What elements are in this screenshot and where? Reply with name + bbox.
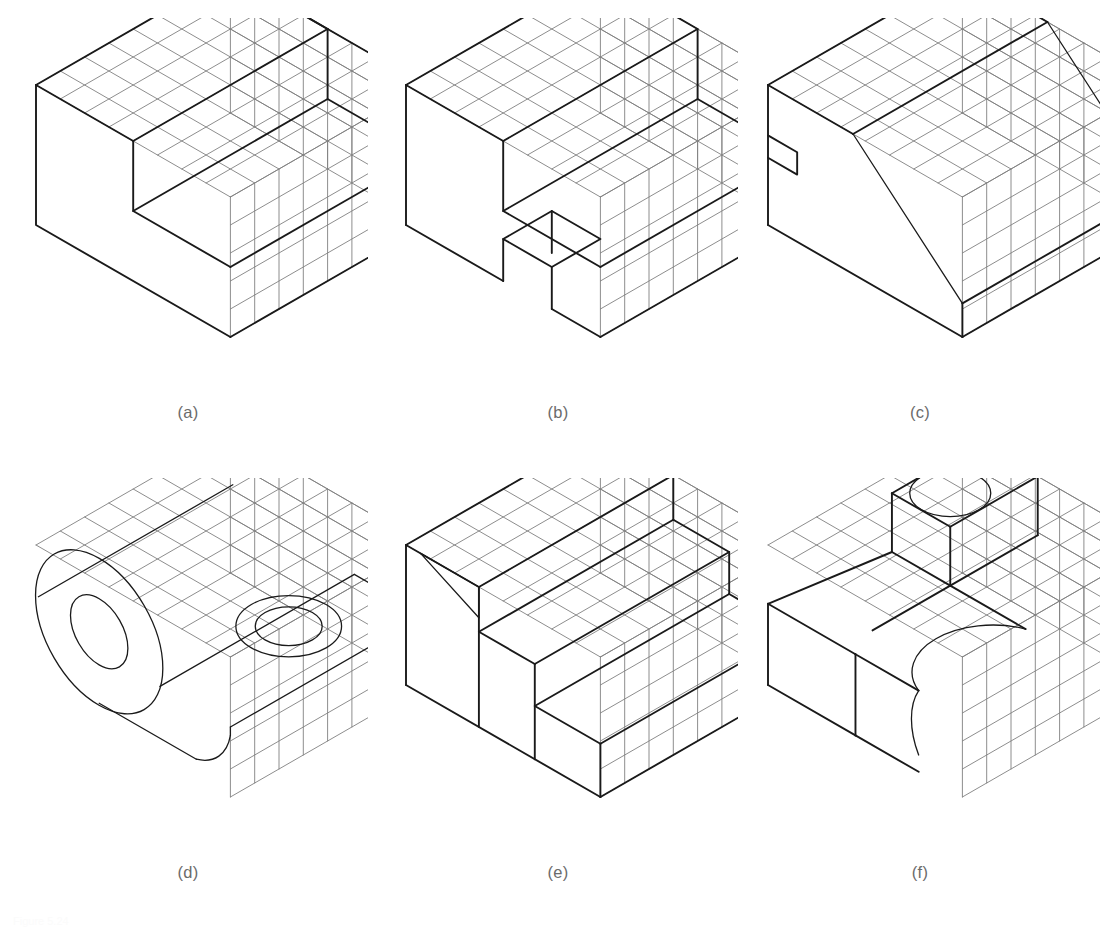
object-circle <box>59 585 140 679</box>
object-edge <box>962 191 1100 303</box>
grid-line <box>914 57 1100 169</box>
panel-caption-a: (a) <box>8 403 368 422</box>
grid-line <box>182 18 368 113</box>
object-edge <box>230 85 368 337</box>
isometric-exercise-sheet: (a)(b)(c)(d)(e)(f) <box>0 0 1105 929</box>
grid-line <box>230 18 368 85</box>
grid-line <box>962 478 1100 545</box>
object-edge <box>600 632 738 744</box>
object-edge <box>950 478 1037 527</box>
object-edge <box>855 735 918 771</box>
grid-line <box>914 18 1100 113</box>
grid-line <box>914 478 1100 573</box>
grid-line <box>430 478 624 559</box>
object-circle <box>9 528 189 736</box>
isometric-drawing-d <box>8 478 368 858</box>
grid-line <box>962 18 1100 85</box>
grid-line <box>600 18 738 85</box>
grid-line <box>552 18 738 113</box>
panel-caption-c: (c) <box>740 403 1100 422</box>
object-edge <box>768 685 855 735</box>
figure-panel-a: (a) <box>8 18 368 438</box>
isometric-drawing-a <box>8 18 368 398</box>
object-edge <box>406 225 503 281</box>
grid-line <box>455 478 649 573</box>
grid-line <box>182 57 368 169</box>
grid-line <box>768 478 962 545</box>
grid-line <box>230 18 368 85</box>
figure-panel-d: (d) <box>8 478 368 898</box>
panel-caption-e: (e) <box>378 863 738 882</box>
isometric-drawing-e <box>378 478 738 858</box>
grid-line <box>914 517 1100 629</box>
object-edge <box>421 553 479 617</box>
object-edge <box>768 85 853 134</box>
object-arc <box>912 625 1026 691</box>
grid-line <box>962 478 1100 573</box>
object-circle <box>236 596 342 657</box>
object-edge <box>768 18 1047 85</box>
grid-line <box>792 478 986 559</box>
grid-line <box>552 57 738 169</box>
figure-panel-f: (f) <box>740 478 1100 898</box>
grid-line <box>817 478 1011 573</box>
grid-line <box>792 18 986 99</box>
object-edge <box>38 485 232 597</box>
object-edge <box>600 155 738 267</box>
grid-line <box>455 18 649 113</box>
isometric-drawing-c <box>740 18 1100 398</box>
object-edge <box>872 586 950 631</box>
figure-panel-c: (c) <box>740 18 1100 438</box>
panel-caption-d: (d) <box>8 863 368 882</box>
object-edge <box>729 594 738 632</box>
grid-line <box>60 478 254 559</box>
object-edge <box>950 586 1025 629</box>
object-edge <box>421 553 479 587</box>
grid-line <box>36 478 230 545</box>
object-edge <box>768 135 797 174</box>
object-edge <box>406 478 673 545</box>
object-edge <box>768 225 962 337</box>
object-edge <box>99 703 196 759</box>
grid-line <box>600 478 738 545</box>
object-edge <box>406 685 600 797</box>
grid-line <box>230 478 368 573</box>
grid-line <box>230 478 368 545</box>
grid-line <box>230 18 368 113</box>
object-edge <box>535 664 601 744</box>
object-arc <box>196 735 230 760</box>
grid-line <box>85 478 279 573</box>
grid-line <box>85 18 279 113</box>
grid-line <box>962 18 1100 85</box>
object-edge <box>36 85 230 267</box>
grid-line <box>600 18 738 85</box>
object-edge <box>892 478 1038 493</box>
object-edge <box>230 615 368 727</box>
grid-line <box>962 478 1100 545</box>
figure-panel-b: (b) <box>378 18 738 438</box>
object-edge <box>406 18 738 155</box>
object-arc <box>911 691 918 755</box>
object-edge <box>503 239 552 309</box>
figure-panel-e: (e) <box>378 478 738 898</box>
object-edge <box>855 654 918 690</box>
object-edge <box>552 309 601 337</box>
grid-line <box>600 18 738 113</box>
panel-caption-b: (b) <box>378 403 738 422</box>
object-edge <box>768 604 855 654</box>
object-edge <box>230 155 368 267</box>
object-edge <box>503 99 697 211</box>
grid-line <box>230 478 368 545</box>
panel-caption-f: (f) <box>740 863 1100 882</box>
isometric-drawing-f <box>740 478 1100 858</box>
sheet-footnote: Figure 5.24 <box>13 915 69 927</box>
grid-line <box>182 478 368 573</box>
grid-line <box>182 517 368 629</box>
object-edge <box>950 535 1037 585</box>
grid-line <box>600 478 738 545</box>
isometric-drawing-b <box>378 18 738 398</box>
